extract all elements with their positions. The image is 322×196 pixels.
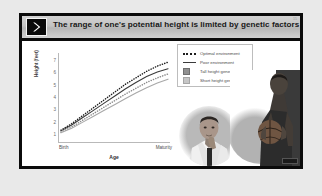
y-tick-7: 7 bbox=[53, 57, 56, 62]
page-number: 15 bbox=[293, 17, 297, 21]
y-tick-3: 3 bbox=[53, 107, 56, 112]
x-tick-birth: Birth bbox=[59, 145, 68, 150]
photo-watermark bbox=[282, 158, 298, 164]
solid-line-icon bbox=[183, 59, 196, 66]
series-line-3 bbox=[61, 79, 168, 133]
series-line-2 bbox=[61, 74, 168, 132]
x-tick-maturity: Maturity bbox=[156, 145, 172, 150]
y-tick-1: 1 bbox=[53, 132, 56, 137]
x-axis-label: Age bbox=[58, 154, 170, 160]
series-line-1 bbox=[61, 69, 168, 131]
growth-curve-chart: Height (feet) 1234567 Birth Maturity Age bbox=[38, 47, 178, 165]
legend-item: Optimal environment bbox=[183, 49, 252, 58]
y-tick-2: 2 bbox=[53, 119, 56, 124]
y-axis-ticks: 1234567 bbox=[45, 55, 56, 139]
legend-label: Optimal environment bbox=[200, 51, 240, 56]
tall-basketball-player-photo bbox=[230, 70, 300, 166]
y-axis-label: Height (feet) bbox=[34, 50, 39, 77]
slide-title-bar: The range of one's potential height is l… bbox=[22, 16, 300, 41]
dotted-line-icon bbox=[183, 50, 196, 57]
legend-label: Poor environment bbox=[200, 60, 234, 65]
plot-area bbox=[58, 53, 170, 143]
y-tick-6: 6 bbox=[53, 70, 56, 75]
chevron-right-icon bbox=[26, 18, 47, 36]
photo-group bbox=[176, 66, 300, 166]
slide: The range of one's potential height is l… bbox=[19, 13, 303, 169]
chart-series-svg bbox=[59, 53, 170, 142]
slide-body: Height (feet) 1234567 Birth Maturity Age… bbox=[22, 41, 300, 166]
y-tick-4: 4 bbox=[53, 95, 56, 100]
y-tick-5: 5 bbox=[53, 82, 56, 87]
page-title: The range of one's potential height is l… bbox=[53, 20, 278, 29]
x-axis-ticks: Birth Maturity bbox=[58, 145, 172, 153]
